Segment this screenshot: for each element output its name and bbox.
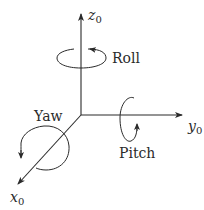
axes-svg (0, 0, 204, 210)
x-axis (18, 115, 81, 184)
rotation-axes-diagram: z0 y0 x0 Roll Pitch Yaw (0, 0, 204, 210)
pitch-label: Pitch (119, 146, 155, 160)
x-axis-label: x0 (10, 190, 24, 207)
yaw-label: Yaw (34, 109, 63, 123)
pitch-rotation-arrow-icon (120, 97, 137, 141)
y-axis-label: y0 (188, 119, 202, 136)
z-axis-label: z0 (88, 8, 102, 25)
roll-label: Roll (112, 51, 140, 65)
yaw-rotation-arrow-icon (21, 126, 69, 170)
